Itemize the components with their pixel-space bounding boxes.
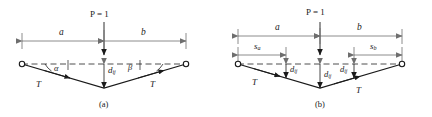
angle-arc-beta-a	[156, 64, 163, 71]
sag-label-a: dij	[108, 66, 116, 75]
dimension-label-a-left: a	[59, 28, 64, 38]
tension-label-left-b: T	[252, 78, 257, 87]
sag-label-left-b: dij	[290, 65, 297, 75]
tension-label-left-a: T	[36, 80, 41, 89]
sag-label-right-b: dij	[340, 65, 347, 75]
sag-label-right-b-sub: ij	[344, 68, 347, 74]
pin-support-right-b	[399, 61, 404, 66]
station-label-left-b: sa	[254, 42, 260, 51]
sag-label-mid-b-sub: ij	[328, 73, 331, 79]
station-label-left-b-sub: a	[258, 45, 261, 51]
panel-a-graphics	[19, 22, 188, 88]
angle-label-beta-a: β	[128, 63, 132, 72]
tension-label-right-b: T	[356, 86, 361, 95]
tension-arrow-right-a	[138, 70, 164, 78]
sag-label-left-b-sub: ij	[294, 68, 297, 74]
caption-a: (a)	[99, 99, 108, 109]
station-label-right-b-sub: b	[374, 45, 377, 51]
station-dimension-right-b	[354, 47, 402, 62]
pin-support-right-a	[183, 61, 188, 66]
load-label-b: P = 1	[306, 8, 325, 17]
dimension-line-b	[238, 28, 402, 44]
station-label-right-b: sb	[370, 42, 376, 51]
dimension-label-b-right: b	[357, 23, 362, 33]
panel-b-graphics	[235, 22, 404, 88]
sag-label-mid-b: dij	[324, 70, 331, 80]
angle-label-alpha-a: α	[54, 64, 58, 73]
dimension-line-a	[22, 30, 186, 49]
figure-vector-layer	[0, 0, 432, 117]
station-dimension-left-b	[238, 47, 286, 62]
sag-label-a-sub: ij	[113, 69, 116, 75]
caption-b: (b)	[315, 99, 325, 109]
figure-container: P = 1 a b α β T T dij (a) P = 1 a b sa s…	[0, 0, 432, 117]
load-label-a: P = 1	[90, 10, 109, 19]
tension-arrow-left-b	[254, 69, 280, 77]
pin-support-left-a	[19, 61, 24, 66]
dimension-label-a-right: b	[141, 28, 146, 38]
tension-arrow-right-b	[334, 76, 360, 84]
dimension-label-b-left: a	[275, 23, 280, 33]
tension-label-right-a: T	[150, 80, 155, 89]
pin-support-left-b	[235, 61, 240, 66]
angle-arc-alpha-a	[45, 64, 52, 71]
